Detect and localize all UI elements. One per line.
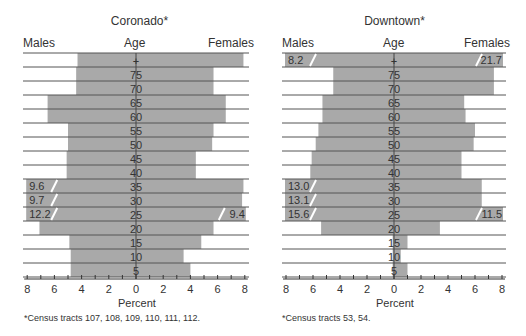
svg-text:20: 20	[388, 223, 400, 235]
age-bar-75	[76, 67, 213, 81]
age-bar-70	[333, 81, 494, 95]
svg-text:9.7: 9.7	[29, 194, 44, 206]
svg-text:15: 15	[388, 237, 400, 249]
svg-text:60: 60	[130, 111, 142, 123]
svg-text:2: 2	[364, 283, 370, 295]
svg-text:30: 30	[130, 195, 142, 207]
svg-text:9.6: 9.6	[29, 180, 44, 192]
svg-text:8: 8	[499, 283, 505, 295]
svg-text:15.6: 15.6	[288, 208, 309, 220]
svg-text:8: 8	[283, 283, 289, 295]
svg-text:+: +	[391, 55, 397, 67]
svg-text:6: 6	[310, 283, 316, 295]
svg-text:10: 10	[130, 251, 142, 263]
svg-text:12.2: 12.2	[29, 208, 50, 220]
svg-text:8.2: 8.2	[288, 54, 303, 66]
svg-text:35: 35	[388, 181, 400, 193]
svg-text:21.7: 21.7	[481, 54, 502, 66]
svg-text:2: 2	[106, 283, 112, 295]
svg-text:30: 30	[388, 195, 400, 207]
pyramid-chart-coronado: 9.69.712.29.4+75706560555045403530252015…	[0, 0, 263, 336]
svg-text:9.4: 9.4	[230, 208, 245, 220]
svg-text:4: 4	[187, 283, 193, 295]
svg-text:4: 4	[79, 283, 85, 295]
pyramid-chart-downtown: 8.221.713.013.115.611.5+7570656055504540…	[263, 0, 526, 336]
svg-text:0: 0	[391, 283, 397, 295]
svg-text:75: 75	[388, 69, 400, 81]
age-bar-5	[71, 263, 191, 277]
coronado-panel: Coronado* Males Age Females 9.69.712.29.…	[0, 0, 263, 336]
svg-text:6: 6	[215, 283, 221, 295]
age-bar-20	[321, 221, 440, 235]
svg-text:40: 40	[130, 167, 142, 179]
x-axis-label: Percent	[118, 297, 156, 309]
svg-text:65: 65	[130, 97, 142, 109]
age-bar-20	[39, 221, 213, 235]
svg-text:6: 6	[51, 283, 57, 295]
svg-text:70: 70	[388, 83, 400, 95]
svg-text:55: 55	[130, 125, 142, 137]
age-bar-40	[310, 165, 461, 179]
svg-text:2: 2	[418, 283, 424, 295]
age-bar-45	[312, 151, 462, 165]
svg-text:60: 60	[388, 111, 400, 123]
svg-text:6: 6	[472, 283, 478, 295]
svg-text:75: 75	[130, 69, 142, 81]
age-bar-+	[78, 53, 244, 67]
svg-text:4: 4	[445, 283, 451, 295]
svg-text:20: 20	[130, 223, 142, 235]
svg-text:8: 8	[24, 283, 30, 295]
svg-text:2: 2	[160, 283, 166, 295]
svg-text:8: 8	[242, 283, 248, 295]
footnote: *Census tracts 53, 54.	[282, 313, 371, 323]
downtown-panel: Downtown* Males Age Females 8.221.713.01…	[263, 0, 526, 336]
footnote: *Census tracts 107, 108, 109, 110, 111, …	[24, 313, 200, 323]
svg-text:50: 50	[130, 139, 142, 151]
svg-text:0: 0	[133, 283, 139, 295]
svg-text:10: 10	[388, 251, 400, 263]
age-bar-10	[71, 249, 184, 263]
svg-text:45: 45	[130, 153, 142, 165]
x-axis-label: Percent	[376, 297, 414, 309]
svg-text:45: 45	[388, 153, 400, 165]
svg-text:55: 55	[388, 125, 400, 137]
svg-text:35: 35	[130, 181, 142, 193]
svg-text:11.5: 11.5	[481, 208, 502, 220]
svg-text:25: 25	[130, 209, 142, 221]
svg-text:40: 40	[388, 167, 400, 179]
svg-text:+: +	[133, 55, 139, 67]
age-bar-75	[333, 67, 494, 81]
svg-text:4: 4	[337, 283, 343, 295]
svg-text:70: 70	[130, 83, 142, 95]
age-bar-70	[76, 81, 213, 95]
svg-text:13.1: 13.1	[288, 194, 309, 206]
svg-text:15: 15	[130, 237, 142, 249]
svg-text:65: 65	[388, 97, 400, 109]
svg-text:13.0: 13.0	[288, 180, 309, 192]
svg-text:50: 50	[388, 139, 400, 151]
svg-text:25: 25	[388, 209, 400, 221]
